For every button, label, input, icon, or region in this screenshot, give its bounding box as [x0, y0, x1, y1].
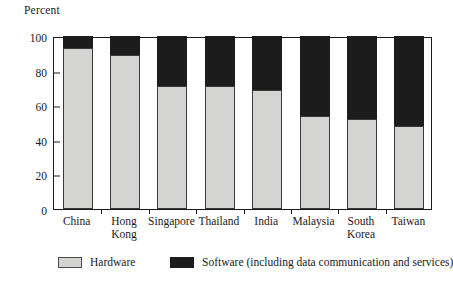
- plot-area: 020406080100: [53, 37, 432, 210]
- bar-segment-software[interactable]: [205, 36, 235, 86]
- y-tick-label-60: 60: [36, 101, 48, 113]
- bar-stack: [347, 36, 377, 209]
- legend-entry-hardware[interactable]: Hardware: [58, 256, 135, 268]
- chart-legend: HardwareSoftware (including data communi…: [0, 250, 453, 276]
- legend-label: Hardware: [90, 256, 135, 268]
- x-tick-mark-2: [149, 209, 150, 214]
- bar-stack: [300, 36, 330, 209]
- bar-group-india[interactable]: [252, 36, 282, 209]
- bar-segment-hardware[interactable]: [347, 119, 377, 209]
- bar-segment-hardware[interactable]: [157, 86, 187, 209]
- legend-swatch-software: [170, 257, 194, 268]
- x-category-label-singapore: Singapore: [148, 215, 195, 228]
- legend-swatch-hardware: [58, 257, 82, 268]
- bar-segment-software[interactable]: [347, 36, 377, 119]
- bars-container: [54, 38, 431, 209]
- x-category-label-thailand: Thailand: [195, 215, 242, 228]
- bar-segment-hardware[interactable]: [63, 48, 93, 209]
- bar-segment-software[interactable]: [394, 36, 424, 126]
- bar-group-malaysia[interactable]: [300, 36, 330, 209]
- bar-stack: [157, 36, 187, 209]
- bar-stack: [252, 36, 282, 209]
- x-category-label-malaysia: Malaysia: [290, 215, 337, 228]
- x-category-label-china: China: [53, 215, 100, 228]
- y-tick-label-40: 40: [36, 136, 48, 148]
- bar-segment-software[interactable]: [300, 36, 330, 116]
- stacked-bar-chart-figure: Percent 020406080100 ChinaHong KongSinga…: [0, 0, 453, 293]
- bar-group-hong-kong[interactable]: [110, 36, 140, 209]
- bar-group-thailand[interactable]: [205, 36, 235, 209]
- bar-segment-hardware[interactable]: [300, 116, 330, 209]
- x-tick-mark-7: [386, 209, 387, 214]
- bar-segment-hardware[interactable]: [205, 86, 235, 209]
- y-tick-label-20: 20: [36, 170, 48, 182]
- bar-segment-software[interactable]: [252, 36, 282, 90]
- y-axis-title: Percent: [24, 4, 60, 16]
- y-tick-label-80: 80: [36, 67, 48, 79]
- legend-entry-software[interactable]: Software (including data communication a…: [170, 256, 453, 268]
- bar-group-taiwan[interactable]: [394, 36, 424, 209]
- bar-group-singapore[interactable]: [157, 36, 187, 209]
- bar-stack: [394, 36, 424, 209]
- x-category-label-taiwan: Taiwan: [385, 215, 432, 228]
- bar-group-china[interactable]: [63, 36, 93, 209]
- bar-segment-hardware[interactable]: [252, 90, 282, 209]
- bar-segment-software[interactable]: [63, 36, 93, 48]
- y-tick-label-0: 0: [41, 205, 47, 217]
- bar-stack: [63, 36, 93, 209]
- bar-segment-software[interactable]: [157, 36, 187, 86]
- x-tick-mark-3: [196, 209, 197, 214]
- legend-label: Software (including data communication a…: [202, 256, 453, 268]
- x-tick-mark-4: [244, 209, 245, 214]
- bar-stack: [205, 36, 235, 209]
- x-tick-mark-1: [101, 209, 102, 214]
- bar-segment-hardware[interactable]: [110, 55, 140, 209]
- y-tick-label-100: 100: [30, 32, 47, 44]
- x-tick-mark-5: [291, 209, 292, 214]
- x-category-label-south-korea: South Korea: [337, 215, 384, 240]
- x-category-label-india: India: [243, 215, 290, 228]
- x-category-label-hong-kong: Hong Kong: [100, 215, 147, 240]
- bar-stack: [110, 36, 140, 209]
- x-tick-mark-6: [338, 209, 339, 214]
- bar-segment-hardware[interactable]: [394, 126, 424, 209]
- bar-group-south-korea[interactable]: [347, 36, 377, 209]
- bar-segment-software[interactable]: [110, 36, 140, 55]
